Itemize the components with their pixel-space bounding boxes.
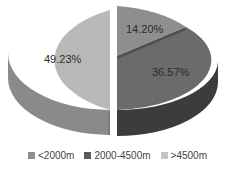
label-gt-4500m: 49.23% xyxy=(44,53,82,65)
slice-gt-4500m-front-edge xyxy=(108,113,110,135)
legend-label-lt-2000m: <2000m xyxy=(38,150,74,161)
legend-swatch-lt-2000m xyxy=(28,152,35,159)
slice-gt-4500m xyxy=(8,10,110,135)
label-2000-4500m: 36.57% xyxy=(152,66,190,78)
chart-legend: <2000m 2000-4500m >4500m xyxy=(0,146,235,164)
legend-item-2000-4500m: 2000-4500m xyxy=(84,150,150,161)
legend-label-2000-4500m: 2000-4500m xyxy=(94,150,150,161)
label-lt-2000m: 14.20% xyxy=(126,23,164,35)
legend-swatch-gt-4500m xyxy=(161,152,168,159)
legend-item-gt-4500m: >4500m xyxy=(161,150,207,161)
legend-label-gt-4500m: >4500m xyxy=(171,150,207,161)
legend-swatch-2000-4500m xyxy=(84,152,91,159)
pie-chart: 14.20% 36.57% 49.23% xyxy=(0,0,235,140)
legend-item-lt-2000m: <2000m xyxy=(28,150,74,161)
